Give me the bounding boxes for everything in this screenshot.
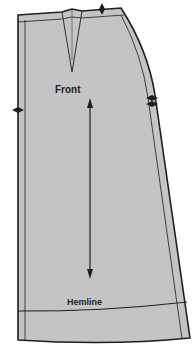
pattern-diagram: Front Hemline [0, 0, 194, 345]
front-label: Front [55, 84, 81, 95]
hemline-label: Hemline [67, 297, 102, 307]
pattern-piece-front [18, 8, 190, 343]
